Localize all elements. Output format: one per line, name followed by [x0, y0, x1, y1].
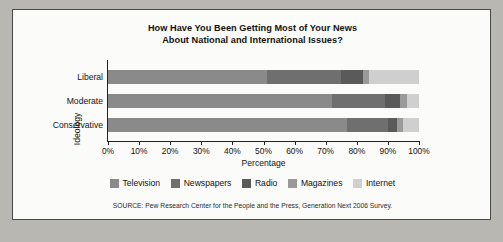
x-tick-label: 80%	[348, 146, 365, 156]
legend-label: Newspapers	[184, 178, 232, 188]
chart-title-line-2: About National and International Issues?	[13, 35, 492, 47]
bar-segment	[347, 118, 387, 132]
x-tick-label: 10%	[131, 146, 148, 156]
legend-item[interactable]: Internet	[353, 178, 395, 188]
legend-label: Radio	[255, 178, 277, 188]
plot-area: LiberalModerateConservative	[108, 62, 419, 140]
x-axis-tick	[139, 141, 140, 145]
legend-swatch-icon	[353, 179, 362, 188]
x-tick-label: 30%	[193, 146, 210, 156]
bar-segment	[332, 94, 385, 108]
y-axis-title-container: Ideology	[23, 66, 45, 144]
x-tick-label: 20%	[162, 146, 179, 156]
legend-label: Internet	[366, 178, 395, 188]
legend-label: Magazines	[301, 178, 343, 188]
x-tick-label: 0%	[102, 146, 114, 156]
x-tick-label: 90%	[380, 146, 397, 156]
x-axis-tick	[357, 141, 358, 145]
bar-segment	[341, 70, 363, 84]
bar-row: Liberal	[108, 70, 419, 84]
x-axis-tick	[326, 141, 327, 145]
x-tick-label: 40%	[224, 146, 241, 156]
bar-segment	[267, 70, 342, 84]
y-tick-label: Conservative	[53, 120, 103, 130]
legend-swatch-icon	[242, 179, 251, 188]
x-axis-tick	[295, 141, 296, 145]
bar-segment	[403, 118, 419, 132]
legend-item[interactable]: Magazines	[288, 178, 342, 188]
x-axis-tick	[170, 141, 171, 145]
x-axis-tick	[108, 141, 109, 145]
bar-segment	[388, 118, 397, 132]
x-axis-tick	[232, 141, 233, 145]
y-tick-label: Moderate	[67, 96, 103, 106]
bar-segment	[407, 94, 419, 108]
x-tick-label: 60%	[286, 146, 303, 156]
legend-item[interactable]: Radio	[242, 178, 277, 188]
legend-item[interactable]: Television	[110, 178, 160, 188]
bar-segment	[385, 94, 401, 108]
x-axis-tick	[419, 141, 420, 145]
bar-segment	[108, 70, 267, 84]
legend-swatch-icon	[171, 179, 180, 188]
bar-row: Conservative	[108, 118, 419, 132]
x-axis-tick	[264, 141, 265, 145]
x-axis-tick	[201, 141, 202, 145]
chart-title-line-1: How Have You Been Getting Most of Your N…	[13, 23, 492, 35]
chart-figure-card: How Have You Been Getting Most of Your N…	[12, 9, 491, 220]
bar-segment	[369, 70, 419, 84]
y-tick-label: Liberal	[77, 72, 103, 82]
x-tick-label: 50%	[255, 146, 272, 156]
bar-row: Moderate	[108, 94, 419, 108]
chart-legend: TelevisionNewspapersRadioMagazinesIntern…	[13, 178, 492, 188]
bar-segment	[108, 94, 332, 108]
source-note: SOURCE: Pew Research Center for the Peop…	[13, 202, 492, 209]
legend-swatch-icon	[110, 179, 119, 188]
legend-swatch-icon	[288, 179, 297, 188]
legend-item[interactable]: Newspapers	[171, 178, 231, 188]
bar-segment	[108, 118, 347, 132]
x-tick-label: 70%	[317, 146, 334, 156]
x-axis-title: Percentage	[108, 158, 419, 168]
x-axis-tick	[388, 141, 389, 145]
legend-label: Television	[122, 178, 160, 188]
x-tick-label: 100%	[408, 146, 429, 156]
chart-title: How Have You Been Getting Most of Your N…	[13, 23, 492, 46]
